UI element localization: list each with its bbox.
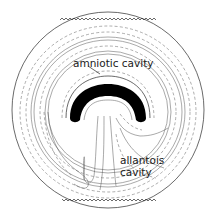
embryo-body — [70, 84, 146, 122]
embryo-membranes-diagram: amniotic cavity allantois cavity — [0, 0, 216, 216]
chorion-membranes — [20, 26, 196, 198]
outer-shell — [12, 12, 204, 208]
allantois-cavity-label-line1: allantois — [120, 154, 164, 166]
amniotic-cavity-label: amniotic cavity — [73, 57, 153, 69]
left-loop — [44, 112, 88, 188]
allantois-cavity-label-line2: cavity — [120, 166, 152, 178]
